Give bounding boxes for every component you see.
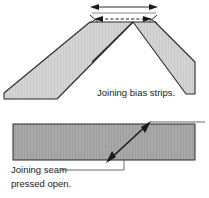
- joined-strip-band: [13, 124, 195, 160]
- joining-bias-strips-label: Joining bias strips.: [97, 87, 175, 98]
- seam-width-measure-arrow: [90, 4, 158, 10]
- bias-strips-figure: Joining bias strips. Joining seam pres: [0, 0, 209, 198]
- joining-seam-label-line2: pressed open.: [11, 178, 71, 189]
- figure-canvas: Joining bias strips. Joining seam pres: [0, 0, 209, 198]
- lower-leader-line: [60, 160, 124, 170]
- bottom-panel-group: Joining seam pressed open.: [11, 121, 205, 189]
- joining-seam-label-line1: Joining seam: [11, 164, 67, 175]
- top-panel-group: Joining bias strips.: [4, 4, 195, 99]
- dashed-stitch-line: [94, 16, 152, 22]
- right-bias-strip: [133, 22, 195, 94]
